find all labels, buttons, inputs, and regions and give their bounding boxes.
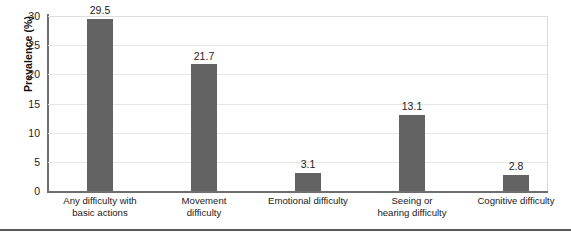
category-label-movement: Movement difficulty — [144, 195, 264, 218]
bar[interactable] — [399, 115, 425, 191]
bar-column: 29.5 — [48, 16, 152, 191]
x-axis-category-labels: Any difficulty with basic actions Moveme… — [48, 195, 548, 229]
bar[interactable] — [503, 175, 529, 191]
bar[interactable] — [87, 19, 113, 191]
bar-value-label: 29.5 — [90, 4, 110, 16]
bottom-divider — [0, 229, 571, 231]
category-label-line: Seeing or — [352, 195, 472, 207]
bar[interactable] — [191, 64, 217, 191]
y-tick-label: 5 — [8, 156, 40, 168]
y-tick-label: 0 — [8, 185, 40, 197]
category-label-seeing-hearing: Seeing or hearing difficulty — [352, 195, 472, 218]
category-label-line: difficulty — [144, 207, 264, 219]
category-label-cognitive: Cognitive difficulty — [456, 195, 571, 207]
bar-chart-figure: Prevalence (%) 30 25 20 15 10 5 0 29.5 2… — [0, 0, 571, 240]
bar-value-label: 3.1 — [301, 158, 316, 170]
category-label-any-difficulty: Any difficulty with basic actions — [40, 195, 160, 218]
bar-value-label: 13.1 — [402, 100, 422, 112]
category-label-line: hearing difficulty — [352, 207, 472, 219]
category-label-line: Cognitive difficulty — [456, 195, 571, 207]
bar-column: 13.1 — [360, 16, 464, 191]
category-label-line: Any difficulty with — [40, 195, 160, 207]
bar-value-label: 2.8 — [509, 160, 524, 172]
category-label-line: Emotional difficulty — [248, 195, 368, 207]
bar-column: 2.8 — [464, 16, 568, 191]
y-axis-title: Prevalence (%) — [22, 0, 34, 134]
x-axis-line — [47, 191, 548, 193]
category-label-emotional: Emotional difficulty — [248, 195, 368, 207]
plot-area: 29.5 21.7 3.1 13.1 2.8 — [48, 16, 548, 191]
category-label-line: Movement — [144, 195, 264, 207]
bar[interactable] — [295, 173, 321, 191]
bar-column: 3.1 — [256, 16, 360, 191]
bar-column: 21.7 — [152, 16, 256, 191]
bar-value-label: 21.7 — [194, 50, 214, 62]
category-label-line: basic actions — [40, 207, 160, 219]
